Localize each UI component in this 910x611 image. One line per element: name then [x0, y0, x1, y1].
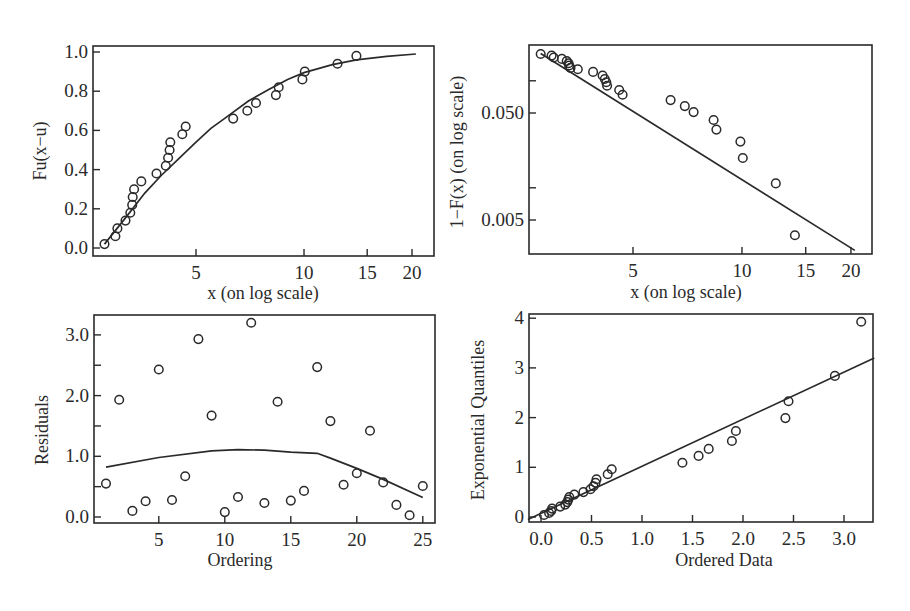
x-tick-label: 10	[215, 529, 234, 550]
x-tick-label: 10	[732, 260, 751, 281]
data-point-marker	[549, 53, 558, 62]
data-point-marker	[712, 125, 721, 134]
data-point-marker	[128, 507, 137, 516]
data-point-marker	[405, 511, 414, 520]
data-point-marker	[181, 122, 190, 131]
x-axis-label: Ordering	[208, 550, 273, 570]
data-point-marker	[287, 496, 296, 505]
data-point-marker	[353, 469, 362, 478]
data-point-marker	[589, 68, 598, 77]
data-point-marker	[300, 487, 309, 496]
plot-frame	[94, 315, 435, 523]
y-tick-label: 0.4	[64, 159, 88, 180]
data-point-marker	[857, 317, 866, 326]
y-axis-ticks: 0.00.20.40.60.81.0	[64, 41, 100, 258]
x-tick-label: 10	[295, 262, 314, 283]
x-axis-ticks: 0.00.51.01.52.02.53.0	[529, 515, 856, 549]
x-tick-label: 20	[347, 529, 366, 550]
x-axis-label: Ordered Data	[675, 550, 772, 570]
panel-residuals: 0.01.02.03.0 510152025 Ordering Residual…	[32, 315, 435, 570]
data-point-marker	[243, 107, 252, 116]
x-axis-label: x (on log scale)	[207, 283, 318, 304]
data-point-marker	[732, 427, 741, 436]
y-axis-label: Fu(x−u)	[30, 121, 51, 180]
y-tick-label: 1	[515, 456, 525, 477]
y-tick-label: 2.0	[65, 385, 89, 406]
data-point-marker	[252, 99, 261, 108]
data-point-marker	[247, 319, 256, 328]
data-points	[100, 52, 361, 249]
x-axis-ticks: 510152025	[154, 516, 432, 550]
y-tick-label: 0.050	[481, 102, 524, 123]
data-point-marker	[137, 177, 146, 186]
y-axis-ticks: 0.0500.005	[481, 81, 536, 230]
data-point-marker	[392, 501, 401, 510]
data-point-marker	[681, 102, 690, 111]
data-point-marker	[694, 452, 703, 461]
y-axis-ticks: 01234	[515, 307, 537, 527]
x-axis-label: x (on log scale)	[630, 282, 741, 303]
x-tick-label: 3.0	[832, 528, 856, 549]
plot-frame	[529, 314, 873, 522]
data-points	[536, 50, 799, 240]
y-tick-label: 1.0	[64, 41, 88, 62]
data-point-marker	[168, 496, 177, 505]
x-tick-label: 20	[403, 262, 422, 283]
y-tick-label: 2	[515, 407, 525, 428]
data-point-marker	[419, 482, 428, 491]
data-point-marker	[229, 114, 238, 123]
fitted-curve	[105, 54, 416, 244]
data-point-marker	[689, 108, 698, 117]
y-tick-label: 0.8	[64, 80, 88, 101]
data-point-marker	[704, 445, 713, 454]
y-tick-label: 0.2	[64, 198, 88, 219]
data-point-marker	[728, 437, 737, 446]
x-tick-label: 25	[413, 529, 432, 550]
data-point-marker	[313, 363, 322, 372]
data-point-marker	[221, 508, 230, 517]
data-point-marker	[155, 365, 164, 374]
data-point-marker	[115, 396, 124, 405]
y-tick-label: 3.0	[65, 324, 89, 345]
data-point-marker	[194, 335, 203, 344]
data-point-marker	[736, 137, 745, 146]
y-axis-label: Residuals	[32, 395, 52, 465]
data-point-marker	[152, 169, 161, 178]
x-tick-label: 5	[191, 262, 201, 283]
x-tick-label: 15	[281, 529, 300, 550]
data-point-marker	[678, 459, 687, 468]
x-tick-label: 5	[628, 260, 638, 281]
y-tick-label: 0.0	[65, 506, 89, 527]
data-point-marker	[352, 52, 361, 61]
chart-canvas: 0.00.20.40.60.81.0 5101520 x (on log sca…	[0, 0, 910, 611]
figure: 0.00.20.40.60.81.0 5101520 x (on log sca…	[0, 0, 910, 611]
y-axis-label: Exponential Quantiles	[468, 340, 488, 500]
data-points	[540, 317, 866, 519]
x-tick-label: 2.5	[782, 528, 806, 549]
x-tick-label: 0.5	[580, 528, 604, 549]
y-tick-label: 0	[515, 506, 525, 527]
plot-frame	[93, 46, 434, 256]
data-point-marker	[260, 499, 269, 508]
x-tick-label: 1.5	[681, 528, 705, 549]
data-point-marker	[273, 397, 282, 406]
panel-qq: 01234 0.00.51.01.52.02.53.0 Ordered Data…	[468, 307, 874, 570]
smoothed-curve	[106, 450, 423, 498]
y-tick-label: 0.005	[481, 209, 524, 230]
data-point-marker	[366, 427, 375, 436]
y-axis-ticks: 0.01.02.03.0	[65, 324, 101, 527]
x-tick-label: 15	[358, 262, 377, 283]
fitted-line	[541, 54, 855, 251]
x-tick-label: 20	[841, 260, 860, 281]
data-point-marker	[739, 154, 748, 163]
data-point-marker	[339, 481, 348, 490]
data-point-marker	[772, 179, 781, 188]
data-point-marker	[781, 414, 790, 423]
data-point-marker	[141, 497, 150, 506]
x-tick-label: 0.0	[529, 528, 553, 549]
y-tick-label: 1.0	[65, 445, 89, 466]
x-tick-label: 1.0	[630, 528, 654, 549]
data-point-marker	[234, 493, 243, 502]
x-tick-label: 2.0	[731, 528, 755, 549]
data-points	[102, 319, 427, 520]
